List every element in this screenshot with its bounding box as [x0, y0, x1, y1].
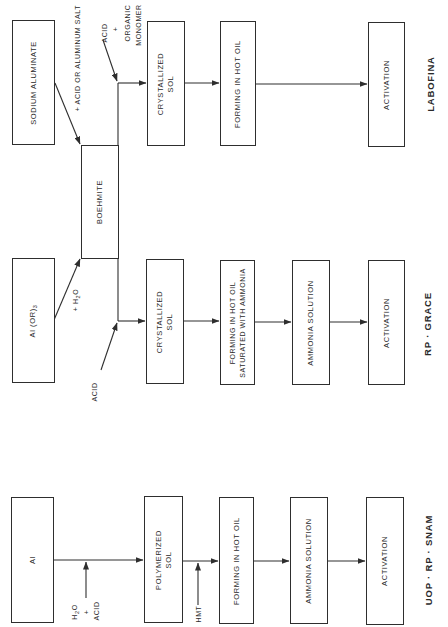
- box-labofina-forming: FORMING IN HOT OIL: [220, 21, 256, 146]
- process-title-uop-rp-snam: UOP · RP · SNAM: [424, 515, 433, 605]
- label-alkoxide-main: Al (OR): [27, 308, 36, 337]
- label-h2o-suffix: O: [71, 604, 78, 610]
- label-sodium-aluminate: SODIUM ALUMINATE: [29, 41, 39, 125]
- label-sol: SOL: [166, 52, 176, 114]
- label-labofina-activation: ACTIVATION: [382, 60, 392, 110]
- label-snam-forming: FORMING IN HOT OIL: [232, 517, 242, 605]
- arrow-acid-grace: [101, 323, 117, 370]
- box-sodium-aluminate: SODIUM ALUMINATE: [12, 20, 55, 145]
- label-crystallized: CRYSTALLIZED: [156, 52, 166, 114]
- label-forming-hot-oil: FORMING IN HOT OIL: [228, 268, 238, 377]
- label-water-sub: 2: [75, 295, 81, 299]
- label-snam-ammonia-solution: AMMONIA SOLUTION: [304, 518, 314, 603]
- box-aluminum: Al: [11, 497, 54, 623]
- label-polymerized: POLYMERIZED: [154, 530, 164, 590]
- label-grace-crystallized-sol: CRYSTALLIZED SOL: [155, 290, 175, 352]
- label-h2o-sub: 2: [74, 610, 80, 614]
- label-water-prefix: + H: [72, 298, 79, 311]
- label-alkoxide-sub: 3: [32, 304, 38, 308]
- label-water-suffix: O: [72, 289, 79, 295]
- box-aluminum-alkoxide: Al (OR)3: [12, 258, 55, 383]
- label-labofina-plus: +: [111, 27, 120, 32]
- label-grace-activation: ACTIVATION: [382, 298, 392, 348]
- label-grace-forming-saturated: FORMING IN HOT OIL SATURATED WITH AMMONI…: [228, 268, 248, 377]
- label-boehmite: BOEHMITE: [95, 180, 105, 224]
- box-grace-ammonia-solution: AMMONIA SOLUTION: [292, 260, 330, 385]
- box-boehmite: BOEHMITE: [81, 145, 119, 259]
- label-hmt: HMT: [194, 606, 203, 623]
- label-h2o-prefix: H: [71, 614, 78, 620]
- label-organic: ORGANIC: [123, 5, 132, 42]
- label-grace-ammonia-solution: AMMONIA SOLUTION: [306, 280, 316, 365]
- label-sol: SOL: [164, 530, 174, 590]
- label-aluminum: Al: [28, 556, 38, 564]
- process-title-labofina: LABOFINA: [426, 56, 435, 111]
- label-labofina-forming: FORMING IN HOT OIL: [233, 40, 243, 128]
- label-saturated-ammonia: SATURATED WITH AMMONIA: [238, 268, 248, 377]
- box-labofina-crystallized-sol: CRYSTALLIZED SOL: [147, 21, 185, 146]
- box-grace-crystallized-sol: CRYSTALLIZED SOL: [146, 259, 184, 384]
- label-crystallized: CRYSTALLIZED: [155, 290, 165, 352]
- label-labofina-acid: ACID: [100, 23, 109, 42]
- box-grace-forming-saturated: FORMING IN HOT OIL SATURATED WITH AMMONI…: [220, 260, 255, 385]
- label-plus-water: + H2O: [71, 289, 83, 312]
- label-monomer: MONOMER: [134, 4, 143, 46]
- box-polymerized-sol: POLYMERIZED SOL: [144, 496, 183, 623]
- label-grace-acid: ACID: [90, 382, 99, 401]
- process-title-rp-grace: RP · GRACE: [423, 292, 432, 356]
- box-grace-activation: ACTIVATION: [368, 260, 405, 385]
- label-polymerized-sol: POLYMERIZED SOL: [154, 530, 174, 590]
- label-h2o: H2O: [70, 604, 82, 619]
- box-snam-forming: FORMING IN HOT OIL: [219, 497, 254, 624]
- label-aluminum-alkoxide: Al (OR)3: [27, 304, 40, 337]
- box-snam-activation: ACTIVATION: [366, 497, 404, 625]
- box-snam-ammonia-solution: AMMONIA SOLUTION: [290, 497, 328, 624]
- label-snam-activation: ACTIVATION: [380, 536, 390, 586]
- label-snam-plus: +: [82, 610, 91, 615]
- label-labofina-crystallized-sol: CRYSTALLIZED SOL: [156, 52, 176, 114]
- arrow-acid-organic-monomer: [103, 40, 117, 81]
- label-acid-or-aluminum-salt: + ACID OR ALUMINUM SALT: [73, 5, 82, 111]
- label-sol: SOL: [165, 290, 175, 352]
- box-labofina-activation: ACTIVATION: [368, 22, 405, 147]
- label-snam-acid: ACID: [92, 601, 101, 620]
